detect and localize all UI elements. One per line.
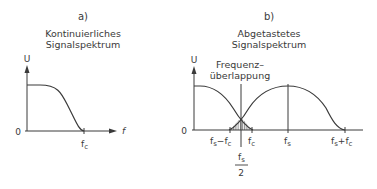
x-axis-label-a: f	[122, 126, 127, 136]
origin-label-a: 0	[15, 127, 21, 137]
tick-label-fs-minus-fc: fs−fc	[210, 136, 232, 148]
panel-a-label: a)	[78, 11, 88, 22]
y-axis-label-b: U	[191, 55, 198, 65]
tick-label-fc-a: fc	[81, 139, 88, 151]
panel-b: b) Abgetastetes Signalspektrum U Frequen…	[181, 11, 363, 178]
panel-b-title-line1: Abgetastetes	[238, 28, 301, 39]
tick-label-fc-b: fc	[248, 136, 255, 148]
panel-b-label: b)	[264, 11, 274, 22]
tick-label-fs-plus-fc: fs+fc	[331, 136, 353, 148]
annotation-line2: überlappung	[210, 70, 270, 81]
x-axis-arrow-icon	[109, 129, 117, 134]
half-fs-label: fs 2	[235, 152, 248, 178]
spectrum-diagram: a) Kontinuierliches Signalspektrum U f 0…	[0, 0, 377, 189]
half-fs-numerator: fs	[238, 152, 245, 164]
panel-a-title-line1: Kontinuierliches	[45, 28, 121, 39]
panel-a: a) Kontinuierliches Signalspektrum U f 0…	[15, 11, 127, 151]
y-axis-label-a: U	[24, 54, 31, 64]
baseband-curve-b	[194, 86, 253, 130]
y-axis-arrow-icon	[25, 65, 30, 73]
panel-a-title-line2: Signalspektrum	[46, 39, 120, 50]
shifted-curve-b	[229, 86, 345, 130]
y-axis-arrow-icon	[192, 66, 197, 74]
panel-b-title-line2: Signalspektrum	[232, 39, 306, 50]
spectrum-curve-a	[27, 85, 84, 131]
tick-label-fs: fs	[284, 136, 291, 148]
origin-label-b: 0	[181, 126, 187, 136]
annotation-line1: Frequenz–	[216, 59, 264, 70]
half-fs-denominator: 2	[238, 168, 244, 178]
